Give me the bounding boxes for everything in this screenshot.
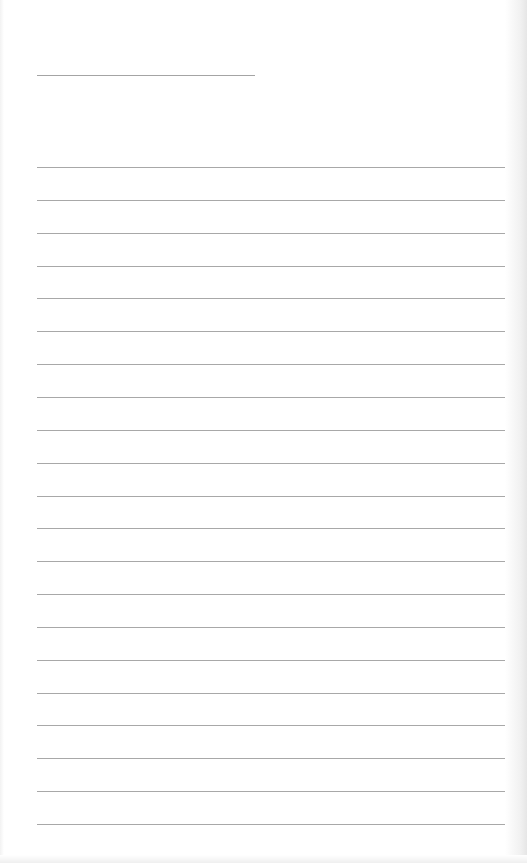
ruled-line: [37, 594, 505, 595]
ruled-line: [37, 430, 505, 431]
ruled-line: [37, 660, 505, 661]
ruled-line: [37, 758, 505, 759]
ruled-line: [37, 496, 505, 497]
paper-right-edge-shadow: [505, 0, 527, 863]
ruled-line: [37, 528, 505, 529]
paper-left-edge-shadow: [0, 0, 4, 863]
ruled-line: [37, 824, 505, 825]
ruled-line: [37, 791, 505, 792]
ruled-line: [37, 200, 505, 201]
ruled-line: [37, 266, 505, 267]
lined-paper: [0, 0, 527, 863]
title-underline: [37, 75, 255, 76]
ruled-line: [37, 298, 505, 299]
ruled-line: [37, 693, 505, 694]
ruled-line: [37, 725, 505, 726]
ruled-line: [37, 167, 505, 168]
paper-bottom-edge-shadow: [0, 855, 527, 863]
ruled-line: [37, 364, 505, 365]
ruled-line: [37, 627, 505, 628]
ruled-line: [37, 233, 505, 234]
ruled-line: [37, 463, 505, 464]
ruled-line: [37, 331, 505, 332]
ruled-line: [37, 397, 505, 398]
ruled-line: [37, 561, 505, 562]
